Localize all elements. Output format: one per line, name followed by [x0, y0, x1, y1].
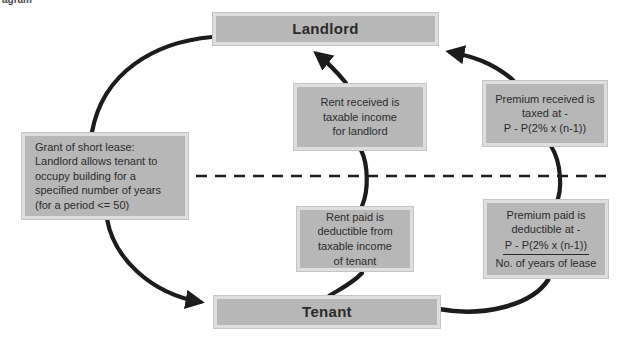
- rent-received-node: Rent received is taxable income for land…: [294, 84, 426, 150]
- lease-tax-flow-diagram: agram Landlord Rent received is: [0, 0, 620, 346]
- premium-paid-fraction-denominator: No. of years of lease: [496, 255, 597, 271]
- premium-received-line: Premium received is: [495, 92, 595, 107]
- cropped-caption-fragment: agram: [2, 0, 32, 5]
- connector-rent-received-to-landlord-arrow: [317, 54, 346, 83]
- connector-grant-to-tenant-arrow: [107, 219, 200, 302]
- connector-premium-received-to-landlord-arrow: [450, 52, 513, 80]
- rent-paid-line: taxable income: [318, 239, 392, 254]
- premium-received-line: taxed at -: [522, 106, 568, 121]
- grant-of-short-lease-node: Grant of short lease: Landlord allows te…: [22, 133, 188, 219]
- grant-line: specified number of years: [35, 183, 161, 198]
- connector-landlord-to-grant: [92, 37, 212, 132]
- tenant-label: Tenant: [302, 302, 352, 322]
- landlord-label: Landlord: [292, 19, 359, 39]
- grant-line: Landlord allows tenant to: [35, 154, 157, 169]
- grant-line: occupy building for a: [35, 169, 136, 184]
- grant-line: Grant of short lease:: [35, 140, 135, 155]
- connector-tenant-to-premium-paid: [439, 280, 548, 312]
- connector-premium-paid-to-premium-received: [551, 146, 560, 204]
- premium-paid-fraction: P - P(2% x (n-1)) No. of years of lease: [496, 238, 597, 270]
- rent-received-line: Rent received is: [321, 95, 400, 110]
- rent-received-line: taxable income: [323, 110, 397, 125]
- tenant-node: Tenant: [214, 296, 440, 328]
- rent-received-line: for landlord: [332, 124, 387, 139]
- premium-paid-fraction-numerator: P - P(2% x (n-1)): [503, 238, 589, 255]
- premium-paid-line: deductible at -: [511, 222, 580, 237]
- premium-paid-line: Premium paid is: [507, 208, 586, 223]
- grant-line: (for a period <= 50): [35, 198, 129, 213]
- rent-paid-line: deductible from: [317, 224, 392, 239]
- landlord-node: Landlord: [213, 13, 438, 45]
- rent-paid-line: Rent paid is: [326, 210, 384, 225]
- connector-tenant-to-rent-paid: [329, 273, 362, 296]
- rent-paid-node: Rent paid is deductible from taxable inc…: [297, 207, 413, 271]
- rent-paid-line: of tenant: [334, 254, 377, 269]
- connector-rent-paid-to-rent-received: [361, 150, 367, 206]
- premium-received-node: Premium received is taxed at - P - P(2% …: [483, 81, 607, 146]
- premium-paid-node: Premium paid is deductible at - P - P(2%…: [484, 200, 608, 278]
- premium-received-formula: P - P(2% x (n-1)): [504, 121, 586, 136]
